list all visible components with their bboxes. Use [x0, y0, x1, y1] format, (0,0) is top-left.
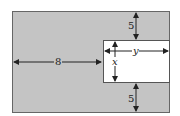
top-gap-label: 5 — [128, 20, 134, 31]
left-width-label: 8 — [55, 56, 61, 67]
bottom-gap-label: 5 — [128, 93, 134, 104]
inner-height-label: x — [112, 56, 118, 67]
diagram: 5 5 8 x y — [0, 0, 180, 116]
inner-width-label: y — [132, 45, 139, 56]
